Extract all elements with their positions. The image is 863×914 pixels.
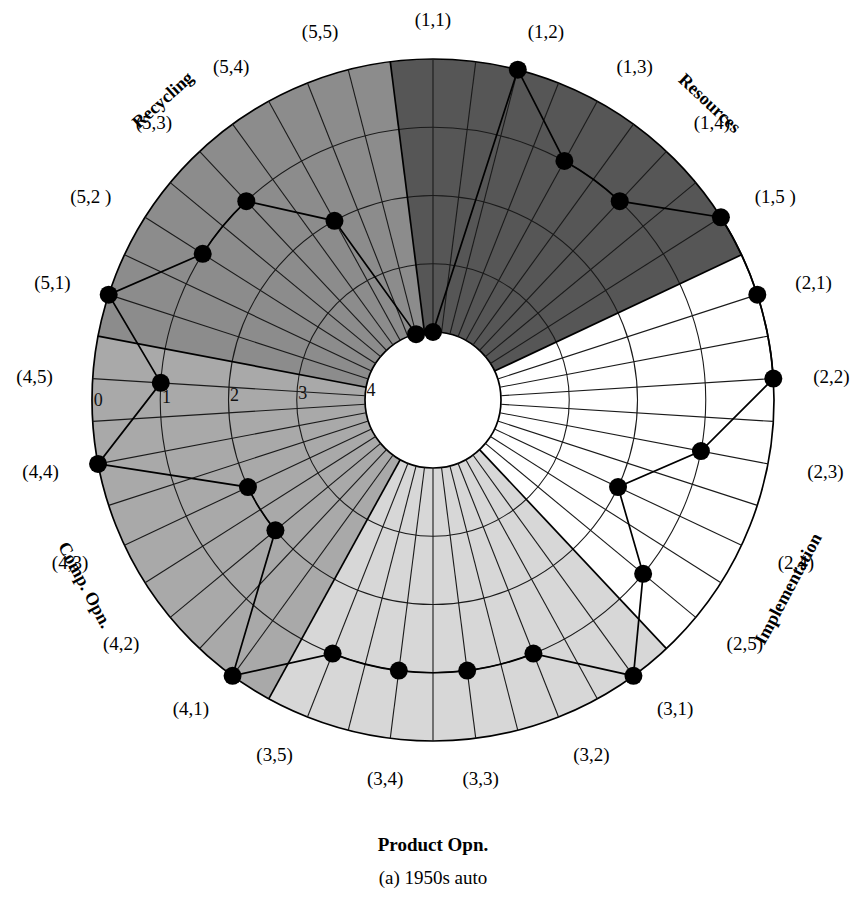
axis-label-4,1: (4,1)	[173, 698, 209, 720]
data-point	[407, 325, 425, 343]
data-point	[324, 645, 342, 663]
data-point	[712, 208, 730, 226]
axis-label-1,1: (1,1)	[415, 9, 451, 31]
data-point	[609, 478, 627, 496]
radar-chart-figure: 01234 (1,1)(1,2)(1,3)(1,4)(1,5 )(2,1)(2,…	[0, 0, 863, 914]
axis-label-1,5: (1,5 )	[755, 186, 796, 208]
axis-label-3,1: (3,1)	[657, 698, 693, 720]
data-point	[524, 645, 542, 663]
radial-tick-2: 2	[230, 385, 239, 405]
axis-label-5,1: (5,1)	[34, 272, 70, 294]
axis-label-3,5: (3,5)	[256, 744, 292, 766]
data-point	[624, 667, 642, 685]
data-point	[224, 667, 242, 685]
axis-label-1,2: (1,2)	[528, 21, 564, 43]
axis-label-3,2: (3,2)	[573, 744, 609, 766]
ring-4	[365, 332, 501, 468]
data-point	[239, 478, 257, 496]
axis-label-5,4: (5,4)	[213, 56, 249, 78]
radial-tick-0: 0	[94, 390, 103, 410]
data-point	[100, 286, 118, 304]
data-point	[764, 370, 782, 388]
data-point	[424, 323, 442, 341]
data-point	[89, 455, 107, 473]
sector-title-2: Implementation	[750, 530, 825, 648]
axis-label-4,2: (4,2)	[103, 633, 139, 655]
radial-tick-3: 3	[298, 383, 307, 403]
axis-label-2,2: (2,2)	[813, 366, 849, 388]
data-point	[555, 152, 573, 170]
data-point	[611, 192, 629, 210]
data-point	[194, 245, 212, 263]
axis-label-3,3: (3,3)	[463, 768, 499, 790]
data-point	[237, 192, 255, 210]
axis-label-1,3: (1,3)	[617, 56, 653, 78]
axis-label-3,4: (3,4)	[367, 768, 403, 790]
data-point	[692, 442, 710, 460]
polar-radar-chart: 01234 (1,1)(1,2)(1,3)(1,4)(1,5 )(2,1)(2,…	[0, 0, 863, 914]
axis-label-5,5: (5,5)	[302, 21, 338, 43]
axis-label-5,2: (5,2 )	[70, 186, 111, 208]
caption-main-label: Product Opn.	[378, 834, 489, 855]
caption-sub-label: (a) 1950s auto	[379, 867, 488, 889]
data-point	[458, 662, 476, 680]
data-point	[390, 662, 408, 680]
data-point	[634, 565, 652, 583]
axis-label-2,3: (2,3)	[807, 461, 843, 483]
radial-tick-1: 1	[162, 387, 171, 407]
data-point	[748, 286, 766, 304]
axis-label-2,1: (2,1)	[795, 272, 831, 294]
data-point	[509, 61, 527, 79]
axis-label-4,4: (4,4)	[22, 461, 58, 483]
radial-tick-4: 4	[367, 380, 376, 400]
data-point	[325, 212, 343, 230]
data-point	[266, 521, 284, 539]
axis-label-4,5: (4,5)	[16, 366, 52, 388]
